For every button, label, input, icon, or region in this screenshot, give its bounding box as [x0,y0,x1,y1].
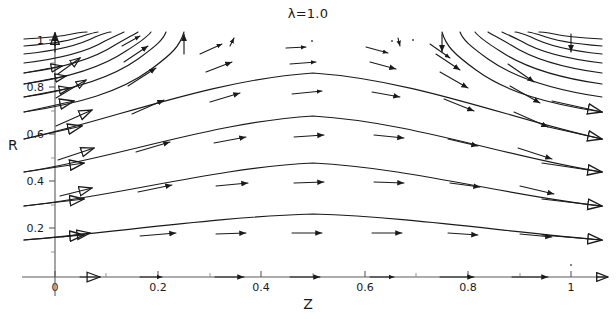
vec-r4-c3 [210,93,240,102]
vec-r3-c5 [374,135,404,138]
vec-r4-c2 [132,100,164,114]
vec-r3-c3 [214,137,246,143]
vec-r2-c3 [216,183,248,186]
boundary-arrow-glyphs [24,34,602,240]
inflow-arrow-left-5 [24,101,74,112]
vec-r6-c3 [200,44,222,54]
streamline-left-6 [24,32,166,97]
outflow-arrow-right-2 [542,199,602,206]
vec-r5-c7 [510,86,540,103]
vec-r7-c3 [230,38,234,46]
vec-r4-c7 [514,112,548,127]
vec-r1-c1 [62,233,90,237]
vec-r2-c1 [60,188,92,196]
outflow-arrow-right-3 [542,163,602,172]
vec-r3-c6 [448,139,478,146]
vec-r6-c5 [366,47,388,53]
vec-r4-c5 [372,92,400,97]
vec-r7-c6 [430,44,450,58]
vec-r3-c1 [58,148,94,160]
vec-r7-c5 [398,38,400,46]
streamline-plot-canvas [0,0,616,319]
inflow-arrow-left-8 [24,66,62,73]
streamline-arch-2 [24,163,602,206]
streamline-left-11 [24,32,98,46]
stray-dot-4 [570,264,572,266]
vec-r5-c3 [206,62,232,72]
vec-r5-c2 [128,68,156,86]
vec-r7-c2 [122,36,140,46]
inflow-arrow-left-3 [24,163,84,172]
figure-root: λ=1.0 Z R 0 0.2 0.4 0.6 0.8 1 0.2 0.4 0.… [0,0,616,319]
inflow-arrow-left-4 [24,126,82,139]
streamline-arch-3 [24,116,602,172]
vec-r1-c6 [448,233,478,235]
stray-dot-3 [412,39,414,41]
vec-r3-c4 [294,135,324,137]
streamline-right-17 [502,32,602,63]
vec-r2-c5 [374,182,404,183]
streamline-arch-1 [24,214,602,240]
streamline-right-19 [528,32,602,46]
outflow-arrow-right-5 [552,101,602,112]
vec-r5-c6 [440,72,468,88]
vec-r2-c7 [520,186,554,194]
axes-group [22,32,608,296]
streamline-left-9 [24,32,124,63]
vec-r4-c4 [292,91,322,94]
vec-r5-c1 [56,80,86,98]
vec-r3-c7 [518,148,552,159]
inflow-arrow-left-1 [24,235,84,240]
outflow-arrow-right-1 [542,235,602,240]
streamline-right-14 [460,32,602,97]
inflow-arrow-left-7 [24,76,66,84]
vec-r5-c4 [290,62,316,64]
vec-r2-c4 [294,182,324,183]
x-minor-ticks [106,273,520,277]
streamline-arch-4 [24,73,602,139]
vec-r5-c5 [370,62,396,69]
stray-dot-2 [391,40,393,42]
vec-r1-c2 [140,233,176,236]
outflow-arrow-right-4 [544,126,602,139]
inflow-arrow-left-6 [24,88,70,97]
vec-r1-c3 [216,233,246,234]
stray-dot-1 [311,40,313,42]
vec-r2-c2 [138,185,172,192]
vec-r6-c4 [286,47,306,48]
